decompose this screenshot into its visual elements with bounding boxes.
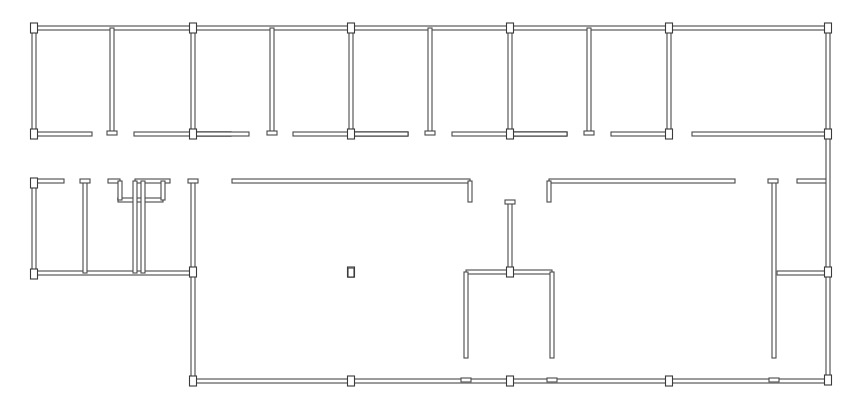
structural-column bbox=[348, 129, 355, 139]
wall-vertical bbox=[118, 181, 122, 200]
structural-column bbox=[190, 129, 197, 139]
wall-horizontal bbox=[232, 179, 470, 183]
structural-column bbox=[31, 129, 38, 139]
door-jamb bbox=[505, 200, 515, 204]
walls-layer bbox=[32, 26, 830, 383]
wall-vertical bbox=[161, 181, 165, 200]
wall-vertical bbox=[270, 28, 274, 134]
wall-horizontal bbox=[351, 132, 408, 136]
wall-horizontal bbox=[777, 271, 828, 275]
freestanding-column bbox=[348, 268, 354, 277]
structural-column bbox=[190, 376, 197, 386]
structural-column bbox=[31, 269, 38, 279]
wall-vertical bbox=[547, 181, 551, 202]
structural-column bbox=[666, 23, 673, 33]
structural-column bbox=[190, 267, 197, 277]
wall-vertical bbox=[428, 28, 432, 134]
wall-vertical bbox=[772, 181, 776, 358]
wall-vertical bbox=[191, 28, 195, 134]
wall-vertical bbox=[133, 181, 137, 273]
wall-vertical bbox=[349, 28, 353, 134]
wall-vertical bbox=[32, 181, 36, 274]
door-jamb bbox=[768, 179, 778, 183]
structural-column bbox=[190, 23, 197, 33]
structural-column bbox=[348, 376, 355, 386]
wall-vertical bbox=[508, 202, 512, 272]
wall-vertical bbox=[468, 181, 472, 202]
structural-column bbox=[825, 129, 832, 139]
wall-vertical bbox=[141, 181, 145, 273]
wall-vertical bbox=[83, 181, 87, 273]
door-jamb bbox=[80, 179, 90, 183]
door-jamb bbox=[188, 179, 198, 183]
wall-vertical bbox=[667, 28, 671, 134]
wall-horizontal bbox=[34, 271, 193, 275]
wall-horizontal bbox=[34, 179, 64, 183]
wall-horizontal bbox=[611, 132, 669, 136]
wall-horizontal bbox=[34, 132, 92, 136]
structural-column bbox=[31, 178, 38, 188]
door-jamb bbox=[461, 378, 471, 382]
wall-horizontal bbox=[549, 179, 735, 183]
door-jamb bbox=[267, 131, 277, 135]
wall-vertical bbox=[191, 181, 195, 381]
structural-column bbox=[825, 267, 832, 277]
door-stubs-layer bbox=[80, 131, 779, 382]
structural-column bbox=[507, 23, 514, 33]
door-jamb bbox=[769, 378, 779, 382]
wall-horizontal bbox=[510, 132, 567, 136]
floor-plan-drawing bbox=[0, 0, 853, 414]
door-jamb bbox=[547, 378, 557, 382]
wall-horizontal bbox=[692, 132, 828, 136]
structural-column bbox=[31, 23, 38, 33]
structural-column bbox=[507, 376, 514, 386]
wall-vertical bbox=[550, 272, 554, 358]
wall-vertical bbox=[508, 28, 512, 134]
wall-vertical bbox=[826, 28, 830, 380]
structural-column bbox=[348, 23, 355, 33]
door-jamb bbox=[107, 131, 117, 135]
wall-horizontal bbox=[797, 179, 828, 183]
door-jamb bbox=[584, 131, 594, 135]
wall-horizontal bbox=[193, 132, 249, 136]
wall-vertical bbox=[587, 28, 591, 134]
structural-column bbox=[507, 129, 514, 139]
wall-vertical bbox=[464, 272, 468, 358]
door-jamb bbox=[425, 131, 435, 135]
structural-column bbox=[666, 129, 673, 139]
wall-vertical bbox=[110, 28, 114, 134]
wall-vertical bbox=[32, 28, 36, 134]
structural-column bbox=[825, 23, 832, 33]
structural-column bbox=[825, 375, 832, 385]
structural-column bbox=[507, 267, 514, 277]
structural-column bbox=[666, 376, 673, 386]
